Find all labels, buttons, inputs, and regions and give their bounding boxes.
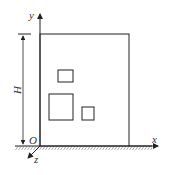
dimension-label-h: H	[11, 85, 23, 95]
opening-large	[49, 94, 73, 120]
structure-diagram: y x z O H	[0, 0, 171, 175]
origin-label: O	[29, 134, 37, 146]
x-axis-label: x	[151, 133, 157, 145]
z-axis-label: z	[33, 153, 39, 165]
ground-hatching	[15, 146, 152, 150]
y-axis-label: y	[28, 9, 34, 21]
opening-small	[82, 107, 94, 120]
opening-top	[58, 70, 73, 82]
wall-outline	[40, 34, 129, 146]
